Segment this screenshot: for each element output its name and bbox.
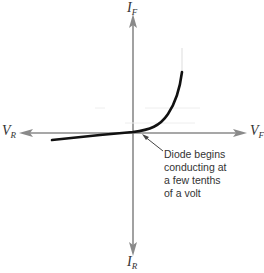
conduction-annotation: Diode begins conducting at a few tenths …	[164, 148, 226, 200]
axis-label-vr: VR	[2, 124, 16, 142]
axis-label-if: IF	[127, 1, 137, 19]
axis-label-vf: VF	[250, 124, 264, 142]
annotation-line: Diode begins	[164, 148, 226, 161]
diagram-canvas	[0, 0, 264, 273]
iv-curve	[52, 72, 182, 140]
annotation-line: conducting at	[164, 161, 226, 174]
annotation-line: of a volt	[164, 187, 226, 200]
axis-label-ir: IR	[127, 255, 137, 273]
current-axis	[129, 14, 137, 256]
diode-iv-diagram: IF IR VR VF Diode begins conducting at a…	[0, 0, 264, 273]
annotation-pointer	[142, 134, 163, 151]
annotation-line: a few tenths	[164, 174, 226, 187]
